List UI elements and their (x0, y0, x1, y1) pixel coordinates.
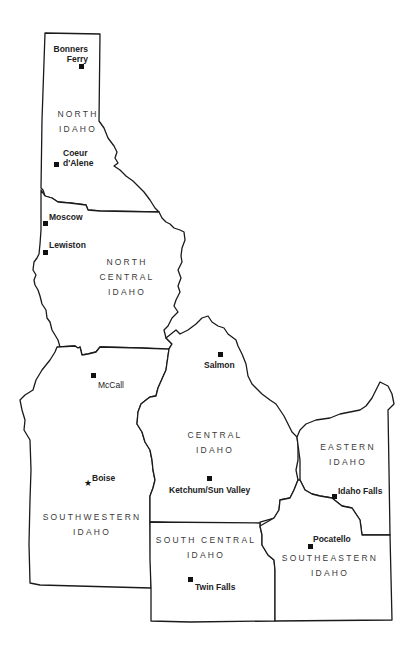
region-label-southeastern-idaho: SOUTHEASTERN IDAHO (280, 551, 380, 581)
region-label-line: IDAHO (37, 525, 147, 540)
city-marker-idaho-falls (332, 494, 337, 499)
region-label-line: IDAHO (310, 455, 386, 470)
region-label-north-central-idaho: NORTH CENTRAL IDAHO (86, 255, 168, 300)
city-label-bonners-ferry: Bonners Ferry (50, 44, 88, 64)
region-label-line: CENTRAL (180, 428, 250, 443)
region-label-north-idaho: NORTH IDAHO (48, 107, 108, 137)
city-name-line: Ferry (50, 54, 88, 64)
region-label-south-central-idaho: SOUTH CENTRAL IDAHO (152, 533, 260, 563)
city-label-salmon: Salmon (204, 360, 235, 370)
city-marker-moscow (43, 221, 48, 226)
city-name-line: d'Alene (63, 158, 93, 168)
city-marker-salmon (218, 352, 223, 357)
region-southwestern-idaho[interactable] (20, 346, 169, 588)
region-label-line: IDAHO (180, 443, 250, 458)
city-marker-coeur-dalene (54, 162, 59, 167)
city-marker-lewiston (43, 250, 48, 255)
region-label-eastern-idaho: EASTERN IDAHO (310, 440, 386, 470)
region-label-line: IDAHO (86, 285, 168, 300)
region-label-line: IDAHO (48, 122, 108, 137)
city-label-idaho-falls: Idaho Falls (338, 486, 382, 496)
region-label-line: SOUTH CENTRAL (152, 533, 260, 548)
region-label-line: IDAHO (280, 566, 380, 581)
region-label-line: CENTRAL (86, 270, 168, 285)
region-label-line: SOUTHWESTERN (37, 510, 147, 525)
city-label-ketchum: Ketchum/Sun Valley (169, 485, 250, 495)
city-label-twin-falls: Twin Falls (195, 582, 235, 592)
region-label-line: NORTH (48, 107, 108, 122)
city-name-line: Bonners (50, 44, 88, 54)
city-marker-pocatello (308, 544, 313, 549)
region-label-line: NORTH (86, 255, 168, 270)
city-label-lewiston: Lewiston (49, 240, 86, 250)
city-name-line: Coeur (63, 148, 93, 158)
city-label-moscow: Moscow (49, 212, 83, 222)
city-label-boise: Boise (92, 473, 115, 483)
region-label-line: EASTERN (310, 440, 386, 455)
city-marker-mccall (91, 373, 96, 378)
region-label-line: SOUTHEASTERN (280, 551, 380, 566)
city-marker-bonners-ferry (79, 64, 84, 69)
city-marker-ketchum (207, 476, 212, 481)
region-label-central-idaho: CENTRAL IDAHO (180, 428, 250, 458)
city-marker-twin-falls (188, 577, 193, 582)
region-label-southwestern-idaho: SOUTHWESTERN IDAHO (37, 510, 147, 540)
city-label-mccall: McCall (98, 380, 124, 390)
region-label-line: IDAHO (152, 548, 260, 563)
city-marker-boise-star-icon: ★ (84, 479, 92, 488)
city-label-pocatello: Pocatello (313, 534, 351, 544)
city-label-coeur-dalene: Coeur d'Alene (63, 148, 93, 168)
